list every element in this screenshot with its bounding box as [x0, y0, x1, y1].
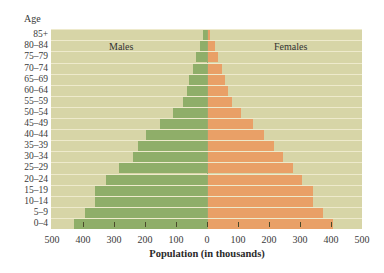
female-bar [208, 208, 323, 218]
x-tick-label: 200 [254, 234, 284, 245]
x-tick-label: 100 [161, 234, 191, 245]
female-bar [208, 86, 228, 96]
x-tick-label: 100 [223, 234, 253, 245]
female-bar [208, 175, 302, 185]
female-bar [208, 219, 333, 229]
male-bar [196, 52, 207, 62]
age-group-label: 35–39 [8, 140, 48, 151]
male-bar [95, 197, 207, 207]
female-bar [208, 97, 232, 107]
age-group-label: 85+ [8, 29, 48, 40]
age-group-label: 45–49 [8, 118, 48, 129]
male-bar [160, 119, 207, 129]
female-bar [208, 64, 222, 74]
male-bar [146, 130, 207, 140]
female-bar [208, 41, 215, 51]
age-group-label: 55–59 [8, 96, 48, 107]
male-bar [95, 186, 207, 196]
age-group-label: 15–19 [8, 185, 48, 196]
male-bar [183, 97, 207, 107]
x-tick-mark [300, 222, 301, 227]
age-group-label: 50–54 [8, 107, 48, 118]
x-tick-label: 400 [316, 234, 346, 245]
x-tick-label: 200 [130, 234, 160, 245]
male-bar [189, 75, 207, 85]
x-tick-mark [176, 222, 177, 227]
x-tick-label: 500 [37, 234, 67, 245]
male-bar [133, 152, 207, 162]
age-group-label: 70–74 [8, 63, 48, 74]
age-group-label: 30–34 [8, 151, 48, 162]
age-axis-header: Age [24, 13, 41, 24]
plot-area: Males Females [51, 29, 362, 229]
female-bar [208, 163, 293, 173]
x-tick-mark [207, 222, 208, 227]
x-tick-label: 300 [99, 234, 129, 245]
age-group-label: 80–84 [8, 40, 48, 51]
age-group-label: 60–64 [8, 85, 48, 96]
male-bar [119, 163, 207, 173]
male-bar [85, 208, 207, 218]
female-bar [208, 108, 241, 118]
female-bar [208, 130, 264, 140]
male-bar [74, 219, 207, 229]
x-tick-label: 400 [68, 234, 98, 245]
x-tick-label: 0 [192, 234, 222, 245]
male-bar [203, 30, 207, 40]
age-group-label: 65–69 [8, 74, 48, 85]
male-bar [173, 108, 207, 118]
age-group-label: 5–9 [8, 207, 48, 218]
x-axis-title: Population (in thousands) [0, 248, 384, 259]
x-tick-label: 500 [347, 234, 377, 245]
age-group-label: 75–79 [8, 51, 48, 62]
male-bar [200, 41, 207, 51]
female-bar [208, 152, 283, 162]
x-tick-mark [145, 222, 146, 227]
age-group-label: 10–14 [8, 196, 48, 207]
male-bar [106, 175, 207, 185]
male-bar [138, 141, 207, 151]
age-group-label: 0–4 [8, 218, 48, 229]
female-bar [208, 52, 218, 62]
age-group-label: 25–29 [8, 162, 48, 173]
x-tick-mark [83, 222, 84, 227]
x-tick-mark [331, 222, 332, 227]
male-bar [187, 86, 207, 96]
female-bar [208, 186, 313, 196]
female-bar [208, 75, 225, 85]
female-bar [208, 197, 313, 207]
female-bar [208, 30, 210, 40]
age-group-label: 20–24 [8, 174, 48, 185]
x-tick-mark [238, 222, 239, 227]
male-bar [193, 64, 207, 74]
female-bar [208, 141, 274, 151]
female-bar [208, 119, 253, 129]
age-group-label: 40–44 [8, 129, 48, 140]
x-tick-label: 300 [285, 234, 315, 245]
x-tick-mark [114, 222, 115, 227]
x-tick-mark [269, 222, 270, 227]
